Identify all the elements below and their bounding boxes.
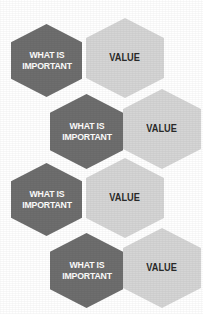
hex-what-is-important-2[interactable]: WHAT IS IMPORTANT [50, 94, 123, 169]
hex-value-3[interactable]: VALUE [86, 158, 164, 238]
hex-label-value-3: VALUE [110, 193, 141, 204]
hex-label-what-is-important-2: WHAT IS IMPORTANT [62, 121, 112, 142]
hex-value-4[interactable]: VALUE [123, 228, 201, 308]
hex-value-1[interactable]: VALUE [86, 18, 164, 98]
hex-what-is-important-3[interactable]: WHAT IS IMPORTANT [11, 163, 82, 236]
hexagon-diagram: WHAT IS IMPORTANT VALUE WHAT IS IMPORTAN… [0, 0, 203, 314]
hex-label-what-is-important-4: WHAT IS IMPORTANT [62, 260, 112, 281]
hex-label-value-2: VALUE [147, 124, 178, 135]
hex-label-value-4: VALUE [147, 263, 178, 274]
hex-label-value-1: VALUE [110, 53, 141, 64]
hex-label-what-is-important-1: WHAT IS IMPORTANT [22, 50, 72, 71]
hex-value-2[interactable]: VALUE [123, 89, 201, 169]
hex-what-is-important-1[interactable]: WHAT IS IMPORTANT [11, 24, 82, 97]
hex-what-is-important-4[interactable]: WHAT IS IMPORTANT [50, 233, 123, 308]
hex-label-what-is-important-3: WHAT IS IMPORTANT [22, 189, 72, 210]
